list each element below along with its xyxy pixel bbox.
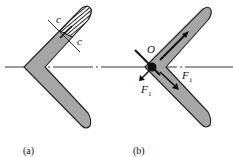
svg-text:1: 1 <box>189 76 193 84</box>
section-label-c-top: c <box>56 13 61 25</box>
svg-text:1: 1 <box>148 90 152 98</box>
point-label-o: O <box>147 43 155 55</box>
force-label-f1-left: F 1 <box>140 83 152 98</box>
svg-text:F: F <box>140 83 148 95</box>
section-label-c-bottom: c <box>77 35 82 47</box>
caption-a: (a) <box>23 145 34 157</box>
force-label-f1-right: F 1 <box>181 69 193 84</box>
svg-text:F: F <box>181 69 189 81</box>
figure-canvas: c c (a) O F 1 F 1 (b) <box>0 0 233 157</box>
panel-a: c c (a) <box>5 6 117 157</box>
caption-b: (b) <box>133 145 145 157</box>
panel-b: O F 1 F 1 (b) <box>117 7 233 157</box>
